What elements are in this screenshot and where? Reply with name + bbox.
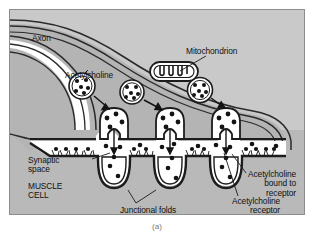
label-axon: Axon (32, 34, 51, 43)
junctional-folds-group (102, 157, 238, 184)
junctional-fold (102, 157, 126, 184)
figure-caption: (a) (0, 222, 314, 231)
neuromuscular-junction-figure: Axon Acetylcholine Mitochondrion Synapti… (0, 0, 314, 242)
label-acetylcholine-receptor: Acetylcholine receptor (232, 197, 280, 215)
junctional-fold (158, 157, 182, 184)
junctional-fold (214, 157, 238, 184)
label-synaptic-space: Synaptic space (28, 156, 59, 175)
label-mitochondrion: Mitochondrion (186, 47, 237, 56)
label-acetylcholine: Acetylcholine (65, 71, 113, 80)
label-muscle-cell: MUSCLE CELL (28, 182, 62, 201)
diagram-panel: Axon Acetylcholine Mitochondrion Synapti… (9, 9, 305, 215)
label-junctional-folds: Junctional folds (120, 206, 176, 215)
label-acetylcholine-bound-to-receptor: Acetylcholine bound to receptor (248, 170, 296, 198)
